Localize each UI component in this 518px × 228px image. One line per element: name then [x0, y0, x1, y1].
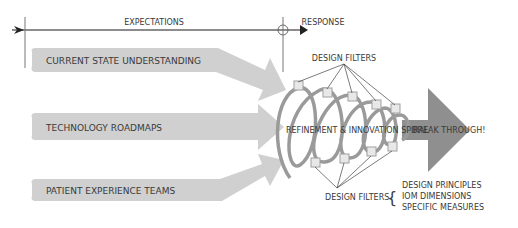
spiral-label: REFINEMENT & INNOVATION SPIRAL: [286, 126, 429, 135]
input-label-patient-experience: PATIENT EXPERIENCE TEAMS: [46, 186, 175, 196]
filter-box: [311, 158, 320, 167]
filter-item-specific-measures: SPECIFIC MEASURES: [402, 203, 484, 212]
filter-box: [348, 92, 357, 101]
filter-box: [388, 142, 397, 151]
filter-box: [294, 81, 303, 90]
breakthrough-label: BREAK THROUGH!: [412, 126, 485, 135]
filter-box: [367, 147, 376, 156]
filter-box: [340, 154, 349, 163]
input-label-technology-roadmaps: TECHNOLOGY ROADMAPS: [45, 123, 162, 133]
filter-item-design-principles: DESIGN PRINCIPLES: [402, 181, 481, 190]
filter-box: [391, 104, 400, 113]
filter-box: [323, 88, 332, 97]
input-label-current-state: CURRENT STATE UNDERSTANDING: [46, 56, 201, 66]
response-label: RESPONSE: [302, 18, 345, 27]
design-filters-bottom-label: DESIGN FILTERS: [325, 193, 389, 202]
filter-item-iom-dimensions: IOM DIMENSIONS: [402, 192, 471, 201]
innovation-diagram: EXPECTATIONS RESPONSE CURRENT STATE UNDE…: [0, 0, 518, 228]
brace-icon: {: [387, 188, 397, 207]
design-filters-top-label: DESIGN FILTERS: [312, 54, 376, 63]
input-arrows: CURRENT STATE UNDERSTANDING TECHNOLOGY R…: [32, 48, 287, 201]
filter-box: [372, 100, 381, 109]
expectations-label: EXPECTATIONS: [124, 18, 184, 27]
